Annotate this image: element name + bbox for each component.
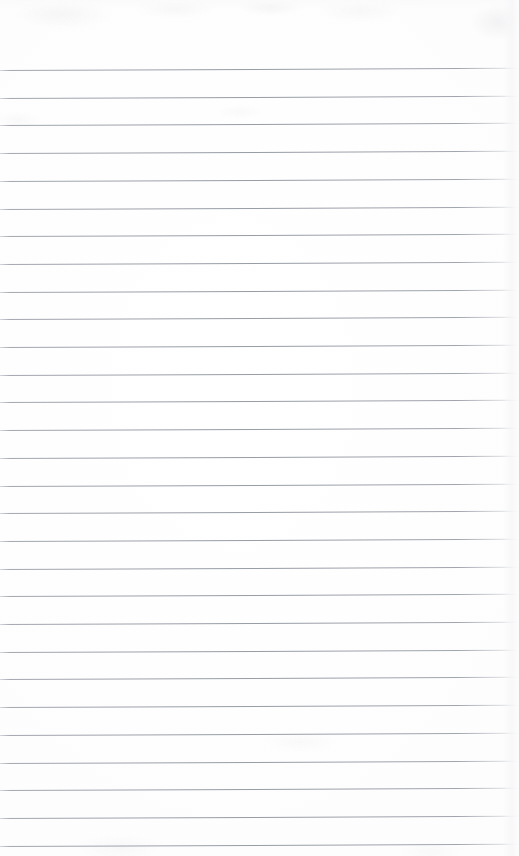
writing-area[interactable] <box>0 0 519 856</box>
notepad-page <box>0 0 519 856</box>
